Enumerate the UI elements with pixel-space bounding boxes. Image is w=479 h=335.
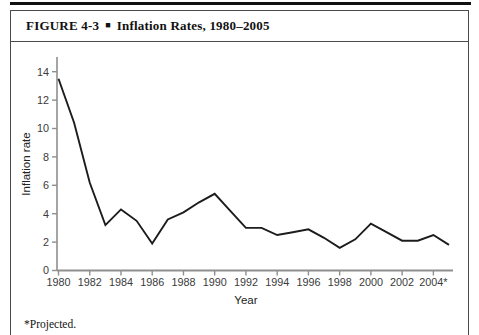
x-tick-label: 1988 — [171, 276, 195, 288]
x-tick-label: 2000 — [359, 276, 383, 288]
figure-stage: FIGURE 4-3 ■ Inflation Rates, 1980–2005 … — [0, 0, 479, 335]
square-bullet-icon: ■ — [105, 20, 111, 30]
y-tick-label: 6 — [43, 179, 49, 191]
figure-box: FIGURE 4-3 ■ Inflation Rates, 1980–2005 … — [10, 10, 469, 335]
x-tick-label: 1990 — [203, 276, 227, 288]
x-tick-label: 2004* — [419, 276, 448, 288]
y-tick-label: 10 — [37, 122, 49, 134]
figure-title-bar: FIGURE 4-3 ■ Inflation Rates, 1980–2005 — [11, 11, 468, 42]
x-tick-label: 1996 — [296, 276, 320, 288]
x-tick-label: 1992 — [234, 276, 258, 288]
footnote: *Projected. — [24, 318, 76, 330]
x-tick-label: 2002 — [390, 276, 414, 288]
x-axis-title: Year — [234, 294, 257, 306]
y-tick-label: 8 — [43, 151, 49, 163]
inflation-series-line — [59, 79, 450, 248]
inflation-chart: 0246810121419801982198419861988199019921… — [11, 42, 469, 335]
x-tick-label: 1994 — [265, 276, 289, 288]
x-tick-label: 1982 — [78, 276, 102, 288]
x-tick-label: 1986 — [140, 276, 164, 288]
y-tick-label: 14 — [37, 66, 49, 78]
top-rule — [10, 2, 471, 5]
y-tick-label: 4 — [43, 208, 49, 220]
y-tick-label: 0 — [43, 264, 49, 276]
y-axis-title: Inflation rate — [20, 132, 32, 195]
figure-title-text: Inflation Rates, 1980–2005 — [117, 18, 270, 34]
figure-label: FIGURE 4-3 — [26, 18, 99, 34]
y-tick-label: 12 — [37, 94, 49, 106]
x-tick-label: 1998 — [328, 276, 352, 288]
x-tick-label: 1984 — [109, 276, 133, 288]
x-tick-label: 1980 — [46, 276, 70, 288]
y-tick-label: 2 — [43, 236, 49, 248]
